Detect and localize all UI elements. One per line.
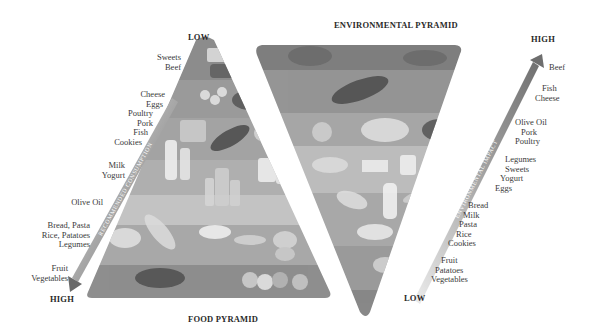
- environmental-pyramid-high-label: HIGH: [531, 34, 555, 44]
- food-pyramid-high-label: HIGH: [50, 294, 74, 304]
- food-level-3: Milk Yogurt: [102, 161, 125, 180]
- food-level-6: Fruit Vegetables: [31, 264, 68, 283]
- env-level-5: Bread Milk Pasta Rice Cookies: [448, 201, 488, 249]
- pyramid-diagram: RECOMMENDED CONSUMPTION ENVIRONMENTAL IM…: [0, 0, 591, 333]
- food-pyramid-low-label: LOW: [188, 32, 209, 42]
- env-level-3: Olive Oil Pork Poultry: [515, 118, 547, 147]
- env-level-2: Fish Cheese: [535, 84, 560, 103]
- food-level-1: Sweets Beef: [157, 53, 181, 72]
- food-pyramid-title: FOOD PYRAMID: [188, 314, 258, 324]
- food-level-4: Olive Oil: [71, 198, 103, 208]
- environmental-pyramid-title: ENVIRONMENTAL PYRAMID: [334, 20, 458, 30]
- food-level-5: Bread, Pasta Rice, Patatoes Legumes: [42, 221, 90, 250]
- environmental-pyramid-low-label: LOW: [404, 293, 425, 303]
- env-level-6: Fruit Patatoes Vegetables: [431, 256, 468, 285]
- env-level-4: Legumes Sweets Yogurt Eggs: [495, 155, 536, 193]
- food-level-2: Cheese Eggs Poultry Pork Fish Cookies: [114, 90, 165, 148]
- env-level-1: Beef: [549, 63, 565, 73]
